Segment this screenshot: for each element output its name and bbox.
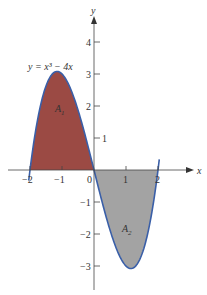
x-axis-label: x [196, 165, 202, 176]
region-a1 [30, 71, 94, 170]
x-axis-arrow-icon [186, 167, 194, 173]
svg-text:4: 4 [86, 37, 91, 48]
svg-text:−2: −2 [22, 174, 33, 185]
svg-text:−2: −2 [80, 229, 91, 240]
svg-text:−3: −3 [80, 261, 91, 272]
chart: −2−1012 −3−2−11234 x y y = x³ − 4x A1 A2 [0, 0, 207, 295]
svg-text:2: 2 [86, 101, 91, 112]
svg-text:2: 2 [155, 174, 160, 185]
y-axis-arrow-icon [91, 16, 97, 24]
function-label: y = x³ − 4x [27, 61, 73, 72]
y-axis-label: y [90, 5, 96, 16]
svg-text:0: 0 [87, 174, 92, 185]
svg-text:1: 1 [123, 174, 128, 185]
svg-text:1: 1 [102, 133, 107, 144]
svg-text:−1: −1 [80, 197, 91, 208]
svg-text:3: 3 [86, 69, 91, 80]
svg-text:−1: −1 [54, 174, 65, 185]
